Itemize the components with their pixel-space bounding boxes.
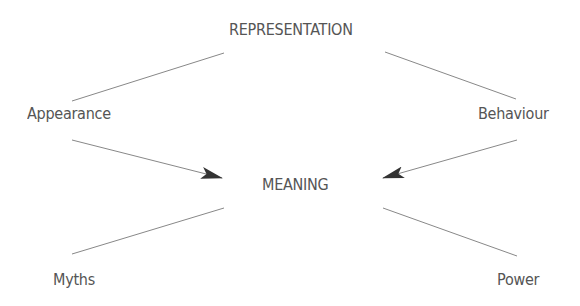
- arrow-appearance-meaning: [72, 140, 222, 178]
- node-behaviour: Behaviour: [478, 104, 549, 124]
- connector-layer: [0, 0, 580, 306]
- line-behaviour-representation: [385, 52, 516, 99]
- node-myths: Myths: [53, 270, 95, 290]
- node-power: Power: [497, 270, 539, 290]
- node-appearance: Appearance: [27, 104, 111, 124]
- line-meaning-power: [383, 208, 517, 256]
- node-representation: REPRESENTATION: [229, 20, 353, 40]
- arrow-behaviour-meaning: [383, 140, 517, 178]
- diagram-canvas: REPRESENTATION Appearance Behaviour MEAN…: [0, 0, 580, 306]
- line-meaning-myths: [72, 208, 224, 254]
- node-meaning: MEANING: [262, 175, 328, 195]
- line-appearance-representation: [72, 53, 224, 101]
